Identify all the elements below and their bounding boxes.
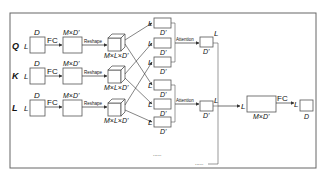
more-heads-ellipsis: ...... [153,151,161,157]
concat-bottom-label: M×D' [253,113,270,120]
dim-left-label: L [24,42,28,51]
slice-left-label: L [148,100,152,109]
head-slice-q2 [154,80,171,90]
slice-bottom-label: D' [160,91,167,98]
slice-bottom-label: D' [160,49,167,56]
head-group-1: L D' L D' L D' Attention L D' [148,18,218,75]
reshape-label: Reshape [84,70,103,75]
slice-bottom-label: D' [160,29,167,36]
slice-left-label: L [148,81,152,90]
cube-q [108,34,125,51]
head-slice-k1 [154,38,171,48]
fc-label: FC [47,98,58,107]
proj-label: M×D' [63,92,80,99]
proj-box-q [63,37,82,53]
slice-left-label: L [148,39,152,48]
slice-bottom-label: D' [160,110,167,117]
slice-bottom-label: D' [160,68,167,75]
slice-left-label: L [148,58,152,67]
out-bottom-label: D' [203,48,210,55]
cube-l [108,99,125,116]
head-group-2: L D' L D' L D' Attention L D' ...... [148,80,218,157]
slice-bottom-label: D' [160,128,167,135]
head-slice-k2 [154,99,171,109]
multi-head-attention-diagram: Q L D FC M×D' Reshape M×L×D' K L D FC M×… [0,0,325,178]
cube-k [108,66,125,83]
concat-box [247,96,276,112]
final-output: FC L D [276,94,313,120]
proj-box-l [63,100,82,116]
dim-left-label: L [24,72,28,81]
cube-label: M×L×D' [104,117,129,124]
dim-top-label: D [34,91,40,100]
concat-output: L M×D' [241,96,276,120]
head-slice-l1 [154,57,171,67]
attention-label: Attention [176,98,194,103]
final-bottom-label: D [304,113,309,120]
input-name-q: Q [12,41,19,51]
cube-label: M×L×D' [104,52,129,59]
concat-ellipsis: ...... [195,160,203,166]
final-left-label: L [294,100,298,109]
reshape-label: Reshape [84,39,103,44]
head-slice-l2 [154,117,171,127]
input-box-k [30,68,45,84]
head-slice-q1 [154,18,171,28]
input-name-l: L [12,103,18,113]
concat-left-label: L [241,102,245,111]
proj-label: M×D' [63,29,80,36]
proj-label: M×D' [63,60,80,67]
attention-label: Attention [176,37,194,42]
reshape-label: Reshape [84,101,103,106]
cube-label: M×L×D' [104,84,129,91]
row-q: Q L D FC M×D' Reshape M×L×D' [12,28,129,59]
fc-label: FC [47,67,58,76]
input-box-q [30,37,45,53]
fc-label: FC [47,36,58,45]
slice-left-label: L [148,19,152,28]
dim-top-label: D [34,59,40,68]
final-output-box [300,100,313,111]
dim-left-label: L [24,104,28,113]
attention-output-1 [200,37,213,47]
input-name-k: K [12,71,20,81]
row-l: L L D FC M×D' Reshape M×L×D' [12,91,129,124]
proj-box-k [63,68,82,84]
slice-left-label: L [148,118,152,127]
out-right-label: L [214,29,218,38]
input-box-l [30,100,45,116]
out-bottom-label: D' [203,112,210,119]
dim-top-label: D [34,28,40,37]
row-k: K L D FC M×D' Reshape M×L×D' [12,59,129,91]
attention-output-2 [200,101,213,111]
final-fc-label: FC [277,94,288,103]
